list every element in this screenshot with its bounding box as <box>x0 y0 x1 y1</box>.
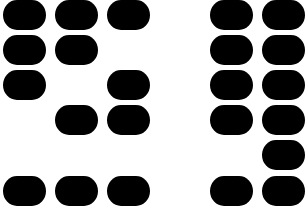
block-pill <box>210 35 253 65</box>
block-pill <box>210 70 253 100</box>
block-pill <box>3 70 46 100</box>
block-pill <box>55 105 98 135</box>
block-pill <box>107 0 150 30</box>
block-pill <box>210 176 253 206</box>
block-pill <box>210 105 253 135</box>
block-pill <box>210 0 253 30</box>
block-pill <box>262 70 305 100</box>
block-pill <box>55 0 98 30</box>
block-pill <box>262 105 305 135</box>
block-pill <box>55 35 98 65</box>
block-pill <box>107 70 150 100</box>
block-pill <box>262 140 305 170</box>
block-pill <box>262 35 305 65</box>
block-pill <box>262 0 305 30</box>
block-pill <box>107 105 150 135</box>
block-pill <box>3 0 46 30</box>
block-pill <box>107 176 150 206</box>
block-pill <box>262 176 305 206</box>
block-pill <box>55 176 98 206</box>
block-pill <box>3 35 46 65</box>
block-pill <box>3 176 46 206</box>
